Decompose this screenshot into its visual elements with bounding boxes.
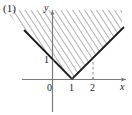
x-tick-label-2: 2 <box>90 83 95 93</box>
panel-number-label: (1) <box>3 3 16 14</box>
y-tick-label-1: 1 <box>44 55 49 65</box>
shaded-region-above-curve <box>0 0 132 115</box>
x-tick-label-1: 1 <box>69 83 74 93</box>
figure-panel: (1) y x 0 1 2 1 <box>0 0 132 115</box>
x-axis-label: x <box>120 82 124 92</box>
origin-label: 0 <box>47 83 52 93</box>
plot-canvas <box>0 0 132 115</box>
y-axis-label: y <box>44 3 48 13</box>
